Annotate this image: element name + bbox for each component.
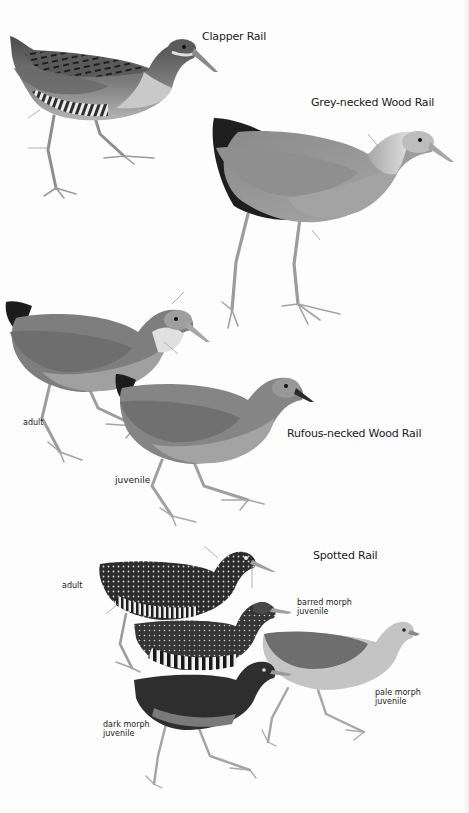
caption-line: barred morph (297, 598, 352, 607)
species-title-rufous-necked-wood-rail: Rufous-necked Wood Rail (287, 428, 421, 441)
caption-spotted-pale-morph: pale morph juvenile (375, 688, 421, 706)
species-title-spotted-rail: Spotted Rail (313, 550, 377, 563)
caption-spotted-dark-morph: dark morph juvenile (103, 720, 150, 738)
caption-line: pale morph (375, 688, 421, 697)
species-title-grey-necked-wood-rail: Grey-necked Wood Rail (311, 97, 434, 110)
caption-rufous-necked-juvenile: juvenile (115, 475, 150, 485)
spotted-rail-dark-morph-juvenile-illustration (132, 660, 292, 792)
caption-line: juvenile (103, 729, 150, 738)
caption-rufous-necked-adult: adult (23, 418, 43, 427)
caption-line: dark morph (103, 720, 150, 729)
caption-line: juvenile (297, 607, 352, 616)
page-edge-shadow (463, 0, 469, 813)
caption-spotted-barred-morph: barred morph juvenile (297, 598, 352, 616)
clapper-rail-illustration (4, 28, 219, 200)
field-guide-plate: Clapper Rail (0, 0, 469, 813)
rufous-necked-wood-rail-juvenile-illustration (112, 368, 317, 526)
caption-spotted-adult: adult (62, 581, 82, 590)
caption-line: juvenile (375, 697, 421, 706)
grey-necked-wood-rail-illustration (208, 114, 456, 336)
